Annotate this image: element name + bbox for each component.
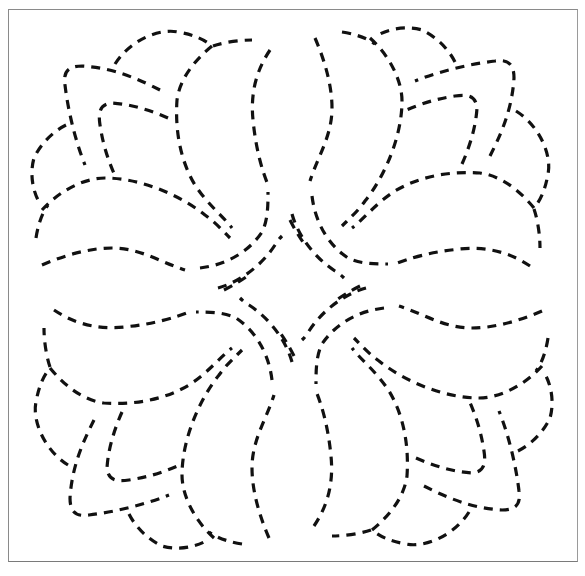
pattern-quadrant-bottom-right	[279, 288, 552, 545]
pattern-quadrant-bottom-left	[35, 275, 292, 548]
pattern-quadrant-top-right	[292, 28, 549, 301]
quilting-stencil-pattern	[0, 0, 585, 576]
pattern-quadrant-top-left	[32, 31, 305, 288]
